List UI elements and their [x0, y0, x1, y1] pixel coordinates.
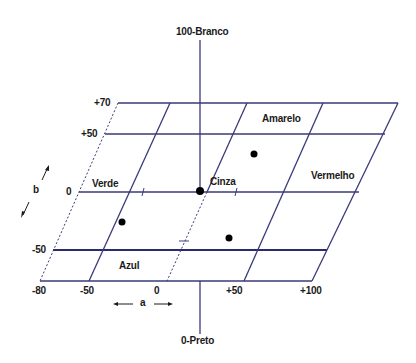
region-label-azul: Azul — [119, 260, 139, 271]
b-tick-minus50: -50 — [32, 244, 46, 255]
b-tick-plus70: +70 — [94, 97, 110, 108]
a-axis-label: a — [140, 297, 145, 308]
a-tick-minus50: -50 — [80, 285, 94, 296]
a-tick-zero: 0 — [154, 285, 159, 296]
point-cinza — [196, 187, 204, 195]
b-tick-zero: 0 — [66, 186, 71, 197]
b-arrow-down-head-icon — [21, 211, 25, 218]
region-label-amarelo: Amarelo — [262, 113, 301, 124]
a-zero-line-lower — [167, 192, 207, 281]
point — [226, 235, 233, 242]
l-axis-top-label: 100-Branco — [176, 26, 228, 37]
region-label-vermelho: Vermelho — [311, 170, 354, 181]
a-tick-plus100: +100 — [300, 285, 322, 296]
a-arrow-left-head-icon — [113, 302, 118, 306]
a-tick-minus80: -80 — [32, 285, 46, 296]
a-arrow-right-head-icon — [168, 302, 173, 306]
point — [119, 219, 126, 226]
point — [251, 151, 258, 158]
region-label-verde: Verde — [92, 178, 118, 189]
l-axis-bottom-label: 0-Preto — [181, 335, 214, 346]
b-axis-label: b — [33, 184, 39, 195]
b-tick-plus50: +50 — [81, 128, 97, 139]
lab-diagram — [0, 0, 416, 363]
region-label-cinza: Cinza — [210, 176, 236, 187]
a-tick-plus50: +50 — [226, 285, 242, 296]
b-arrow-up-head-icon — [45, 165, 49, 171]
